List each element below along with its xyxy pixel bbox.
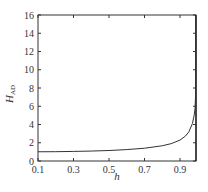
y-tick-label: 12: [24, 46, 34, 57]
y-tick-label: 10: [24, 64, 34, 75]
y-axis-ticks: 0246810121416: [24, 10, 196, 167]
chart: 0.10.30.50.70.9 0246810121416 h HAD: [0, 0, 208, 192]
x-tick-label: 0.9: [174, 164, 187, 175]
plot-frame: [38, 15, 196, 161]
y-axis-label-subscript: AD: [9, 85, 17, 95]
x-tick-label: 0.7: [138, 164, 151, 175]
x-tick-label: 0.3: [67, 164, 80, 175]
data-curve: [38, 15, 196, 152]
y-tick-label: 2: [29, 137, 34, 148]
y-tick-label: 14: [24, 28, 34, 39]
y-tick-label: 6: [29, 101, 34, 112]
x-axis-label: h: [114, 170, 120, 182]
y-tick-label: 16: [24, 10, 34, 21]
y-tick-label: 0: [29, 156, 34, 167]
y-tick-label: 8: [29, 83, 34, 94]
y-axis-label: HAD: [3, 85, 17, 104]
y-tick-label: 4: [29, 119, 34, 130]
